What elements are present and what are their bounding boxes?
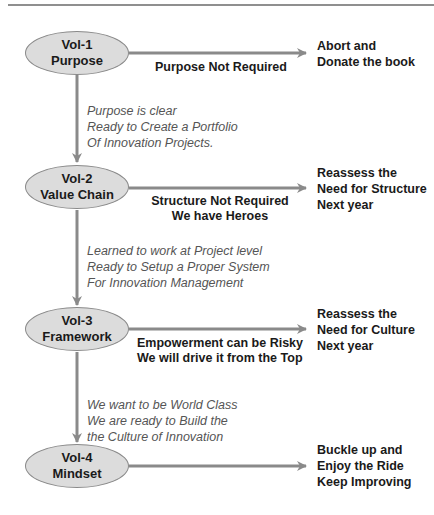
reject-label-3: Empowerment can be Risky We will drive i…	[137, 336, 303, 366]
stage-vol-3: Vol-3 Framework	[25, 307, 129, 351]
stage-vol-4: Vol-4 Mindset	[25, 444, 129, 488]
outcome-4: Buckle up and Enjoy the Ride Keep Improv…	[317, 442, 411, 490]
stage-name: Mindset	[52, 466, 101, 482]
stage-name: Value Chain	[40, 187, 114, 203]
stage-vol-label: Vol-4	[62, 450, 93, 466]
stage-vol-2: Vol-2 Value Chain	[25, 165, 129, 209]
reject-label-2: Structure Not Required We have Heroes	[145, 194, 295, 224]
stage-vol-1: Vol-1 Purpose	[25, 31, 129, 75]
outcome-3: Reassess the Need for Culture Next year	[317, 306, 415, 354]
proceed-label-3: We want to be World Class We are ready t…	[87, 397, 238, 445]
stage-vol-label: Vol-3	[62, 313, 93, 329]
outcome-1: Abort and Donate the book	[317, 38, 415, 70]
stage-vol-label: Vol-2	[62, 171, 93, 187]
proceed-label-2: Learned to work at Project level Ready t…	[87, 243, 270, 291]
proceed-label-1: Purpose is clear Ready to Create a Portf…	[87, 103, 238, 151]
reject-label-1: Purpose Not Required	[155, 60, 285, 75]
stage-vol-label: Vol-1	[62, 37, 93, 53]
outcome-2: Reassess the Need for Structure Next yea…	[317, 165, 427, 213]
stage-name: Framework	[42, 329, 111, 345]
stage-name: Purpose	[51, 53, 103, 69]
